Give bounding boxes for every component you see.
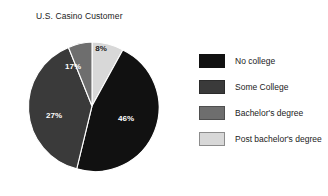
- legend-label-some-college: Some College: [235, 83, 288, 92]
- legend-swatch-some-college: [199, 80, 225, 94]
- pie-label-bachelors: 17%: [65, 62, 81, 71]
- legend-label-no-college: No college: [235, 57, 275, 66]
- legend-item-some-college[interactable]: Some College: [199, 77, 325, 97]
- pie-label-some-college: 27%: [46, 111, 62, 120]
- pie-label-post-bachelors: 8%: [95, 44, 107, 53]
- legend-swatch-post-bachelors: [199, 132, 225, 146]
- legend-item-no-college[interactable]: No college: [199, 51, 325, 71]
- chart-legend: No college Some College Bachelor's degre…: [199, 51, 325, 149]
- pie-label-no-college: 46%: [118, 114, 134, 123]
- pie-slices: [28, 42, 159, 172]
- legend-swatch-no-college: [199, 54, 225, 68]
- legend-item-bachelors[interactable]: Bachelor's degree: [199, 103, 325, 123]
- legend-label-bachelors: Bachelor's degree: [235, 109, 303, 118]
- legend-item-post-bachelors[interactable]: Post bachelor's degree: [199, 129, 325, 149]
- legend-label-post-bachelors: Post bachelor's degree: [235, 135, 322, 144]
- pie-chart-figure: U.S. Casino Customer 8% 46% 27% 17% No c…: [0, 0, 328, 196]
- legend-swatch-bachelors: [199, 106, 225, 120]
